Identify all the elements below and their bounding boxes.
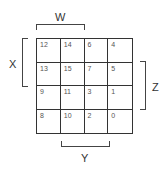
x-bracket <box>22 38 28 87</box>
w-label: W <box>55 11 65 23</box>
kmap-cell: 10 <box>61 110 85 134</box>
kmap-cell: 12 <box>37 39 61 63</box>
y-label: Y <box>81 152 88 164</box>
cell-number: 12 <box>40 41 48 48</box>
cell-number: 3 <box>88 88 92 95</box>
kmap-cell: 5 <box>108 63 132 87</box>
kmap-cell: 2 <box>85 110 109 134</box>
cell-number: 2 <box>88 112 92 119</box>
cell-number: 0 <box>111 112 115 119</box>
cell-number: 7 <box>88 65 92 72</box>
kmap-cell: 1 <box>108 86 132 110</box>
cell-number: 1 <box>111 88 115 95</box>
cell-number: 13 <box>40 65 48 72</box>
kmap-cell: 9 <box>37 86 61 110</box>
karnaugh-map-grid: 12 14 6 4 13 15 7 5 9 11 3 1 8 10 2 0 <box>36 38 133 134</box>
z-bracket <box>140 61 146 110</box>
kmap-cell: 15 <box>61 63 85 87</box>
kmap-cell: 11 <box>61 86 85 110</box>
y-bracket <box>61 141 110 147</box>
w-bracket <box>36 24 85 30</box>
kmap-cell: 0 <box>108 110 132 134</box>
kmap-cell: 6 <box>85 39 109 63</box>
x-label: X <box>9 58 16 70</box>
cell-number: 14 <box>64 41 72 48</box>
cell-number: 5 <box>111 65 115 72</box>
cell-number: 6 <box>88 41 92 48</box>
kmap-cell: 13 <box>37 63 61 87</box>
cell-number: 4 <box>111 41 115 48</box>
kmap-cell: 4 <box>108 39 132 63</box>
kmap-cell: 3 <box>85 86 109 110</box>
cell-number: 10 <box>64 112 72 119</box>
cell-number: 8 <box>40 112 44 119</box>
cell-number: 15 <box>64 65 72 72</box>
cell-number: 11 <box>64 88 71 95</box>
kmap-cell: 7 <box>85 63 109 87</box>
kmap-cell: 8 <box>37 110 61 134</box>
cell-number: 9 <box>40 88 44 95</box>
z-label: Z <box>152 81 159 93</box>
kmap-cell: 14 <box>61 39 85 63</box>
